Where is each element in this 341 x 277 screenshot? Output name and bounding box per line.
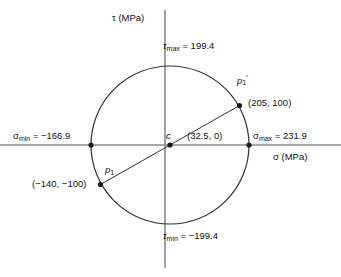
tau-axis-label: τ (MPa) (112, 13, 144, 23)
mohrs-circle-figure: τ (MPa) σ (MPa) τmax = 199.4 τmin = −199… (0, 0, 341, 277)
center-coords-label: (32.5, 0) (187, 131, 222, 141)
p1-subscript: 1 (110, 169, 114, 176)
sigma-max-subscript: max (259, 135, 272, 142)
center-label: c (166, 131, 171, 141)
sigma-max-value: = 231.9 (275, 130, 307, 141)
tau-max-label: τmax = 199.4 (163, 41, 214, 52)
p1-label: p1 (105, 165, 114, 176)
sigma-min-value: = −166.9 (33, 130, 71, 141)
tau-min-value: = −199.4 (180, 230, 218, 241)
p1-point (98, 182, 103, 187)
center-point (167, 142, 172, 147)
sigma-max-point (246, 142, 251, 147)
tau-max-subscript: max (167, 45, 180, 52)
sigma-min-point (88, 142, 93, 147)
p1-prime-prime-mark: ′ (246, 73, 248, 82)
p1-coords-label: (−140, −100) (32, 179, 86, 189)
p1-prime-coords-label: (205, 100) (248, 98, 291, 108)
sigma-axis-label: σ (MPa) (273, 152, 307, 162)
sigma-max-label: σmax = 231.9 (253, 131, 307, 142)
sigma-min-subscript: min (19, 135, 30, 142)
tau-min-subscript: min (167, 235, 178, 242)
sigma-min-label: σmin = −166.9 (13, 131, 70, 142)
tau-min-label: τmin = −199.4 (163, 231, 218, 242)
p1-prime-label: p1′ (237, 74, 248, 86)
p1-prime-point (237, 103, 242, 108)
tau-max-value: = 199.4 (182, 40, 214, 51)
